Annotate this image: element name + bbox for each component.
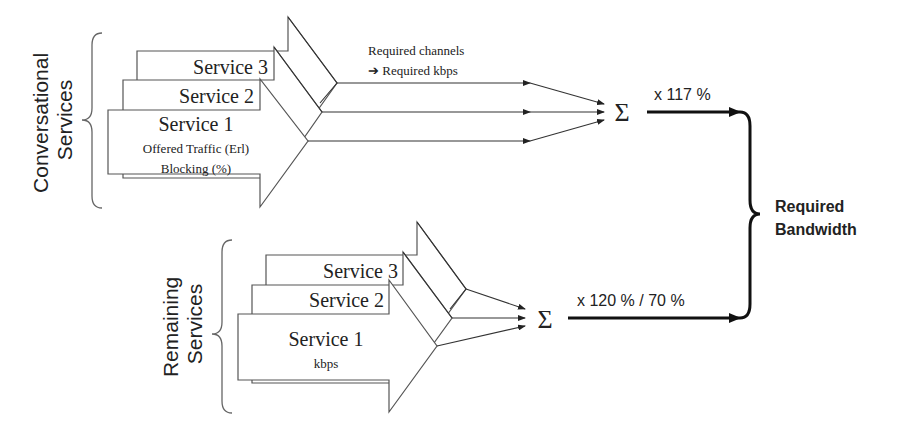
required-bandwidth-label-line1: Required [775,198,844,215]
remaining-service3-label: Service 3 [323,260,398,282]
remaining-service1-label: Service 1 [289,328,364,350]
remaining-brace [212,240,232,413]
output-group: Required Bandwidth [740,112,857,318]
service1-label: Service 1 [159,113,234,135]
service1-detail-blocking: Blocking (%) [161,161,231,176]
required-bandwidth-brace [740,112,760,318]
sum-icon: Σ [614,98,629,127]
remaining-group: Remaining Services Service 3 Service 2 S… [159,222,740,413]
remaining-sum-icon: Σ [537,305,552,334]
conversational-multiplier: x 117 % [654,86,711,103]
bandwidth-diagram: Conversational Services Service 3 Servic… [0,0,915,443]
remaining-label: Remaining Services [159,271,206,377]
service2-label: Service 2 [179,85,254,107]
conversational-group: Conversational Services Service 3 Servic… [29,17,740,208]
remaining-service1-detail: kbps [314,356,339,371]
conversational-brace [82,33,102,208]
service1-detail-traffic: Offered Traffic (Erl) [143,141,249,156]
channels-annotation-line2: ➔ Required kbps [368,63,458,78]
channels-annotation-line1: Required channels [368,43,464,58]
conversational-label: Conversational Services [29,47,76,193]
remaining-service2-label: Service 2 [309,289,384,311]
required-bandwidth-label-line2: Bandwidth [775,221,857,238]
service3-label: Service 3 [193,56,268,78]
remaining-multiplier: x 120 % / 70 % [577,292,685,309]
